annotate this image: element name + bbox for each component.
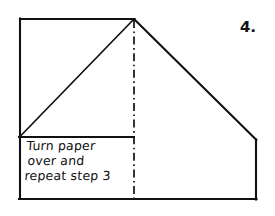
step-number-label: 4.	[240, 18, 257, 36]
instruction-line-1: Turn paper	[26, 138, 133, 153]
paper-folding-diagram: Turn paper over and repeat step 3 4.	[0, 0, 275, 216]
instruction-line-3: repeat step 3	[24, 168, 133, 183]
instruction-caption: Turn paper over and repeat step 3	[24, 138, 132, 183]
diagram-canvas	[0, 0, 275, 216]
instruction-line-2: over and	[27, 153, 133, 168]
